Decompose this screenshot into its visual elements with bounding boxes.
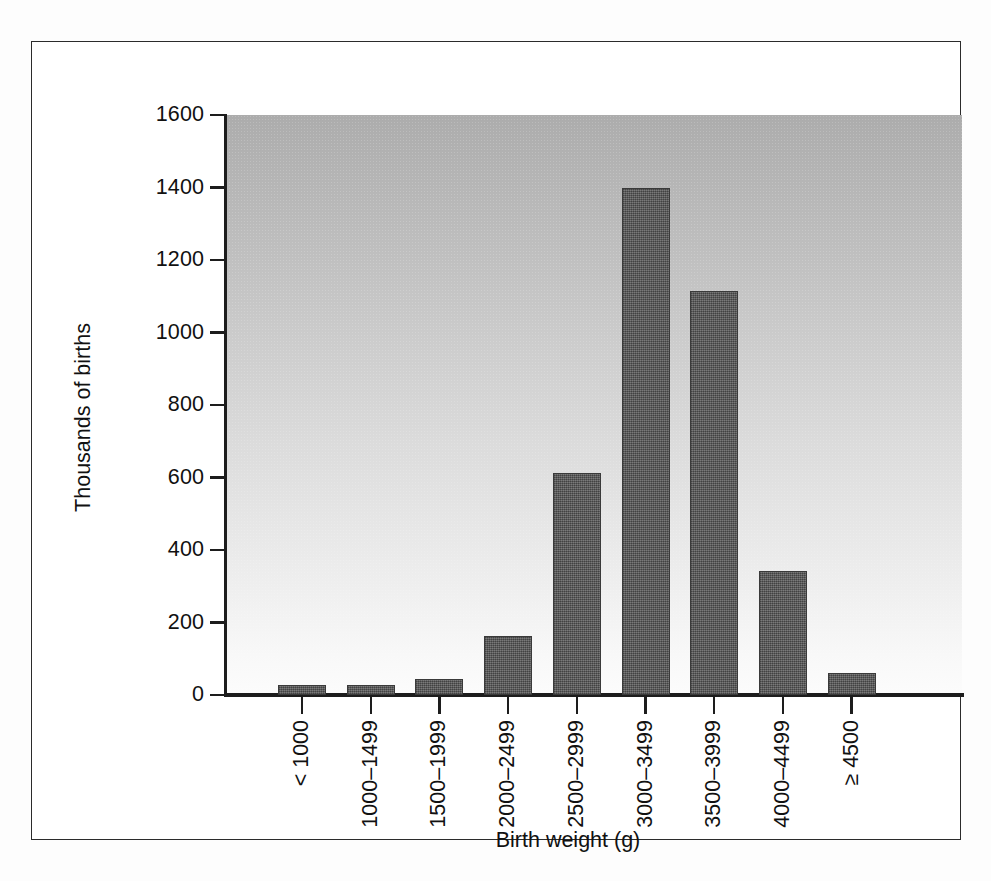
y-axis-tick-label: 1000: [132, 322, 204, 344]
bar: [347, 685, 395, 695]
y-axis-tick-label: 0: [132, 684, 204, 706]
y-axis-tick-label-wrap: 1400: [124, 177, 204, 199]
y-axis-tick: [210, 331, 225, 333]
x-axis-tick-label: 2000–2499: [497, 720, 519, 828]
x-axis-tick-label: 4000–4499: [772, 720, 794, 828]
y-axis-tick-label: 1200: [132, 249, 204, 271]
figure-frame: Thousands of births 02004006008001000120…: [31, 41, 961, 840]
x-axis-title: Birth weight (g): [32, 828, 991, 853]
y-axis-tick: [210, 259, 225, 261]
y-axis-tick-label-wrap: 600: [124, 467, 204, 489]
x-axis-tick: [644, 696, 646, 714]
bar: [553, 473, 601, 695]
y-axis-tick-label: 1400: [132, 177, 204, 199]
x-axis-tick: [850, 696, 852, 714]
y-axis-tick-label: 200: [132, 612, 204, 634]
y-axis-tick-label-wrap: 0: [124, 684, 204, 706]
y-axis-tick-label-wrap: 800: [124, 394, 204, 416]
bar: [622, 188, 670, 695]
bar: [278, 685, 326, 695]
y-axis-tick-label: 600: [132, 467, 204, 489]
x-axis-tick-label: 1500–1999: [429, 720, 451, 828]
x-axis-tick: [301, 696, 303, 714]
x-axis-tick-label: < 1000: [291, 720, 313, 786]
y-axis-tick: [210, 114, 225, 116]
bar: [484, 636, 532, 695]
x-axis-tick: [507, 696, 509, 714]
y-axis-tick-label-wrap: 200: [124, 612, 204, 634]
x-axis-tick-label: 1000–1499: [360, 720, 382, 828]
bar: [759, 571, 807, 695]
y-axis-title: Thousands of births: [71, 268, 96, 568]
x-axis-tick: [713, 696, 715, 714]
y-axis-tick: [210, 621, 225, 623]
x-axis-tick: [438, 696, 440, 714]
x-axis-tick-label: ≥ 4500: [841, 720, 863, 786]
y-axis-tick: [210, 694, 225, 696]
y-axis-tick: [210, 549, 225, 551]
y-axis-tick-label: 1600: [132, 104, 204, 126]
y-axis-tick-label: 400: [132, 539, 204, 561]
x-axis-tick: [370, 696, 372, 714]
y-axis-tick: [210, 476, 225, 478]
x-axis-tick: [782, 696, 784, 714]
x-axis-tick-label: 2500–2999: [566, 720, 588, 828]
y-axis-tick-label-wrap: 1200: [124, 249, 204, 271]
x-axis-tick-label: 3500–3999: [703, 720, 725, 828]
x-axis-tick: [576, 696, 578, 714]
y-axis-tick: [210, 404, 225, 406]
y-axis-tick-label-wrap: 400: [124, 539, 204, 561]
bar: [415, 679, 463, 695]
bar: [690, 291, 738, 695]
figure-root: Thousands of births 02004006008001000120…: [0, 0, 991, 881]
y-axis-tick: [210, 186, 225, 188]
x-axis-tick-label: 3000–3499: [635, 720, 657, 828]
y-axis-tick-label: 800: [132, 394, 204, 416]
bar: [828, 673, 876, 695]
y-axis-tick-label-wrap: 1600: [124, 104, 204, 126]
y-axis-tick-label-wrap: 1000: [124, 322, 204, 344]
